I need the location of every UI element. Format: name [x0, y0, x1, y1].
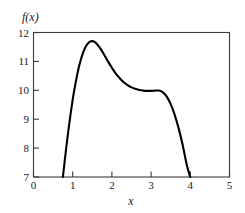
- y-tick-label-11: 11: [18, 55, 29, 67]
- y-tick-label-9: 9: [24, 113, 30, 125]
- y-axis-tick-labels: 12 11 10 9 8 7: [18, 27, 30, 183]
- plot-area: 12 11 10 9 8 7 0 1 2 3 4 5 f(x) x: [0, 0, 245, 213]
- x-tick-label-2: 2: [109, 179, 115, 191]
- x-tick-label-0: 0: [31, 179, 37, 191]
- data-curve-fx: [63, 41, 190, 177]
- y-axis-label: f(x): [22, 10, 39, 24]
- x-axis-tick-labels: 0 1 2 3 4 5: [31, 179, 233, 191]
- y-tick-label-10: 10: [18, 84, 30, 96]
- x-axis-label: x: [127, 194, 134, 208]
- x-tick-label-3: 3: [148, 179, 154, 191]
- x-tick-label-5: 5: [227, 179, 233, 191]
- plot-frame: [34, 33, 230, 178]
- x-tick-label-4: 4: [188, 179, 194, 191]
- y-tick-label-7: 7: [24, 171, 30, 183]
- y-tick-label-12: 12: [18, 27, 29, 39]
- chart-figure: 12 11 10 9 8 7 0 1 2 3 4 5 f(x) x: [0, 0, 245, 213]
- y-axis-ticks: [34, 33, 40, 178]
- y-tick-label-8: 8: [24, 142, 30, 154]
- x-tick-label-1: 1: [70, 179, 76, 191]
